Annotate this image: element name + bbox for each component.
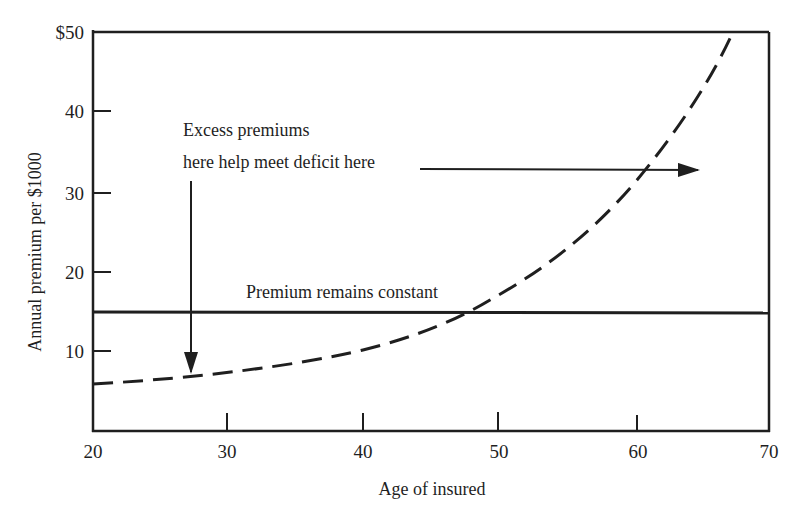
x-tick-70: 70: [760, 441, 779, 462]
plot-frame: [92, 30, 770, 432]
annotation-deficit-text: here help meet deficit here: [183, 152, 375, 172]
x-axis-title: Age of insured: [379, 479, 486, 499]
constant-premium-label: Premium remains constant: [246, 282, 438, 302]
rising-cost-curve: [93, 32, 733, 384]
right-arrow-icon: [420, 169, 698, 170]
y-tick-40: 40: [65, 101, 84, 122]
y-tick-50: $50: [56, 22, 85, 43]
y-tick-20: 20: [65, 262, 84, 283]
x-tick-40: 40: [354, 441, 373, 462]
y-axis-title: Annual premium per $1000: [25, 152, 45, 351]
premium-chart: $50 40 30 20 10 20 30 40 50 60 70 Age of…: [0, 0, 806, 513]
x-tick-20: 20: [84, 441, 103, 462]
x-tick-30: 30: [218, 441, 237, 462]
constant-premium-line: [93, 312, 769, 313]
y-tick-10: 10: [65, 341, 84, 362]
x-axis-tick-labels: 20 30 40 50 60 70: [84, 441, 779, 462]
y-axis-ticks: [93, 111, 111, 351]
annotation-excess-premiums: Excess premiums: [183, 120, 309, 140]
y-tick-30: 30: [65, 183, 84, 204]
x-tick-60: 60: [629, 441, 648, 462]
x-tick-50: 50: [490, 441, 509, 462]
y-axis-tick-labels: $50 40 30 20 10: [56, 22, 85, 362]
x-axis-ticks: [227, 412, 637, 431]
